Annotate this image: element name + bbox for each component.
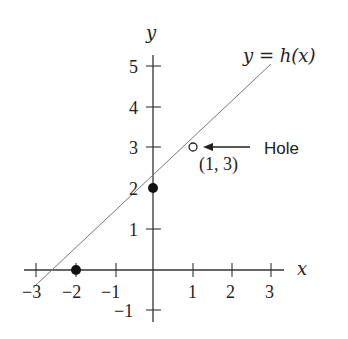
hole-point: [189, 143, 197, 151]
point-x-intercept: [71, 265, 81, 275]
y-tick-label: 1: [129, 220, 138, 240]
function-graph: y x y = h(x) (1, 3) Hole 5 4 3 2 1 −1 −3…: [0, 0, 348, 339]
x-tick-label: −2: [62, 282, 81, 302]
x-tick-label: 2: [226, 282, 235, 302]
y-tick-label: 4: [129, 98, 138, 118]
curve-label: y = h(x): [242, 45, 315, 66]
hole-note: Hole: [264, 139, 299, 158]
y-tick-label: 5: [129, 57, 138, 77]
x-tick-label: 3: [265, 282, 274, 302]
x-tick-label: 1: [188, 282, 197, 302]
y-tick-label: 3: [129, 138, 138, 158]
x-axis-label: x: [297, 258, 307, 279]
y-tick-label: −1: [114, 301, 133, 321]
y-axis-label: y: [145, 22, 157, 43]
x-tick-label: −1: [101, 282, 120, 302]
y-tick-label: 2: [129, 179, 138, 199]
point-y-intercept: [148, 183, 158, 193]
hole-coord-label: (1, 3): [199, 154, 238, 175]
arrow-head-icon: [203, 143, 213, 151]
x-tick-label: −3: [22, 282, 41, 302]
